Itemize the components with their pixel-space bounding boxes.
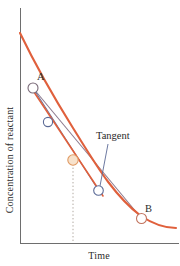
data-point-a-marker bbox=[28, 83, 38, 93]
data-point-b-label: B bbox=[145, 203, 152, 214]
data-point-secant-marker-1 bbox=[43, 117, 52, 126]
y-axis-label: Concentration of reactant bbox=[4, 107, 15, 214]
data-point-a-label: A bbox=[37, 71, 45, 82]
data-point-tangency-marker bbox=[68, 155, 78, 165]
data-point-secant-marker-2 bbox=[94, 186, 104, 196]
tangent-annotation-label: Tangent bbox=[96, 130, 130, 141]
data-point-b-marker bbox=[137, 214, 147, 224]
chart-background bbox=[0, 0, 180, 266]
concentration-vs-time-chart: A B Tangent Time Concentration of reacta… bbox=[0, 0, 180, 266]
x-axis-label: Time bbox=[88, 250, 110, 261]
